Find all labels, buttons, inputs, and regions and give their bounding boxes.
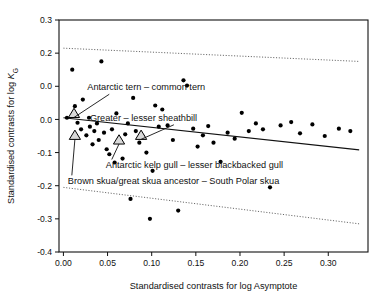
data-point [310,122,314,126]
data-point [171,138,175,142]
y-tick-label: -0.4 [37,247,52,257]
highlighted-data-point [113,135,124,144]
data-point [206,124,210,128]
data-point [278,123,282,127]
data-point [137,141,141,145]
data-point [348,129,352,133]
plot-frame [59,20,368,252]
data-point [75,121,79,125]
data-point [254,121,258,125]
data-point [88,125,92,129]
data-point [233,137,237,141]
x-tick-label: 0.15 [187,258,204,268]
x-tick-label: 0.00 [55,258,72,268]
x-axis-title: Standardised contrasts for log Asymptote [130,281,298,291]
data-point [97,138,101,142]
data-point [110,127,114,131]
scatter-plot-figure: 0.000.050.100.150.200.250.300.30.20.00.0… [0,0,377,301]
chart-canvas: 0.000.050.100.150.200.250.300.30.20.00.0… [0,0,377,301]
x-tick-label: 0.30 [320,258,337,268]
highlighted-data-point [68,108,79,117]
annotation-leader-skua [72,139,75,175]
annotation-label-sheathbill: Greater – lesser sheathbill [90,113,197,123]
data-point [289,120,293,124]
data-point [123,132,127,136]
annotation-label-antarctic-tern: Antarctic tern – common tern [87,82,205,92]
data-point [298,131,302,135]
data-point [131,96,135,100]
data-point [134,129,138,133]
highlighted-data-point [69,130,80,139]
cropped-header-remnant [6,0,8,9]
data-point [261,127,265,131]
data-point [144,150,148,154]
y-tick-label: 0.0 [40,115,52,125]
data-point [191,127,195,131]
data-point [226,131,230,135]
data-point [107,152,111,156]
x-tick-label: 0.20 [232,258,249,268]
data-point [240,111,244,115]
data-point [196,145,200,149]
y-tick-label: -0.3 [37,214,52,224]
data-point [84,133,88,137]
data-point [201,133,205,137]
annotation-label-skua: Brown skua/great skua ancestor – South P… [68,176,280,186]
x-tick-label: 0.05 [99,258,116,268]
data-point [90,142,94,146]
annotation-leader-kelp-gull [112,144,119,160]
data-point [148,217,152,221]
data-point [128,197,132,201]
data-point [70,68,74,72]
confidence-band-line [63,48,359,61]
data-point [79,127,83,131]
x-tick-label: 0.25 [276,258,293,268]
data-point [153,103,157,107]
y-tick-label: 0.0 [40,81,52,91]
confidence-band-line [63,187,359,223]
data-point [81,97,85,101]
data-point [73,104,77,108]
data-point [102,131,106,135]
annotation-label-kelp-gull: Antarctic kelp gull – lesser blackbacked… [106,160,283,170]
y-tick-label: -0.1 [37,148,52,158]
x-tick-label: 0.10 [143,258,160,268]
y-axis-title: Standardised contrasts for log KG [6,68,19,204]
data-point [323,134,327,138]
data-point [160,107,164,111]
y-tick-label: 0.3 [40,15,52,25]
data-point [157,125,161,129]
y-tick-label: -0.2 [37,181,52,191]
data-point [247,129,251,133]
data-point [99,59,103,63]
data-point [92,129,96,133]
data-point [176,208,180,212]
data-point [105,147,109,151]
y-tick-label: 0.2 [40,48,52,58]
data-point [211,141,215,145]
data-point [337,127,341,131]
